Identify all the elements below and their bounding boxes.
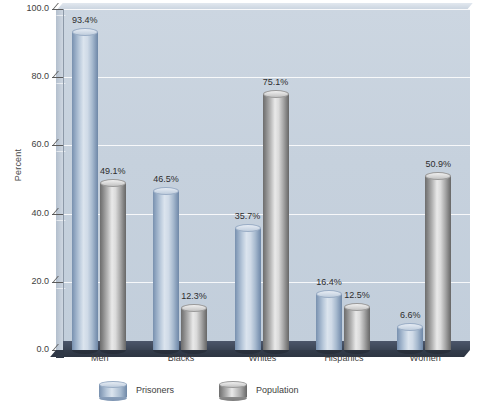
x-axis-label-whites: Whites	[223, 353, 303, 363]
x-axis-label-women: Women	[385, 353, 465, 363]
bar-value-label: 35.7%	[235, 211, 261, 221]
x-axis-label-blacks: Blacks	[141, 353, 221, 363]
gridline-depth	[56, 220, 66, 221]
bar-population-women	[425, 176, 451, 350]
bar-body	[235, 228, 261, 350]
legend-label: Prisoners	[136, 385, 174, 395]
y-axis-tick-mark	[52, 9, 63, 10]
bar-population-blacks	[181, 308, 207, 350]
bar-chart: Percent 0.020.040.060.080.0100.0 93.4%49…	[0, 0, 487, 411]
bar-top-ellipse	[316, 290, 342, 298]
bar-body	[263, 94, 289, 350]
y-axis-line	[63, 9, 64, 350]
y-axis-tick-mark	[52, 282, 63, 283]
legend-item-prisoners[interactable]: Prisoners	[99, 381, 174, 398]
bar-population-whites	[263, 94, 289, 350]
bar-body	[72, 32, 98, 350]
bar-body	[344, 307, 370, 350]
x-axis-label-men: Men	[60, 353, 140, 363]
legend-item-population[interactable]: Population	[219, 381, 299, 398]
bar-population-hispanics	[344, 307, 370, 350]
bar-body	[181, 308, 207, 350]
legend-swatch-part	[219, 381, 247, 388]
bar-prisoners-women	[397, 327, 423, 350]
y-axis-tick-label: 40.0	[5, 208, 49, 218]
bar-prisoners-men	[72, 32, 98, 350]
legend-label: Population	[256, 385, 299, 395]
bar-population-men	[100, 183, 126, 350]
x-axis-label-hispanics: Hispanics	[304, 353, 384, 363]
y-axis-tick-label: 100.0	[5, 3, 49, 13]
y-axis-title: Percent	[13, 125, 23, 205]
chart-legend: PrisonersPopulation	[0, 381, 487, 411]
bar-prisoners-blacks	[153, 191, 179, 350]
gridline-depth	[56, 15, 66, 16]
y-axis-tick-mark	[52, 145, 63, 146]
bar-body	[316, 294, 342, 350]
bar-prisoners-hispanics	[316, 294, 342, 350]
bar-body	[153, 191, 179, 350]
y-axis-tick-label: 0.0	[5, 344, 49, 354]
y-axis-tick-mark	[52, 77, 63, 78]
bar-value-label: 6.6%	[400, 310, 421, 320]
legend-swatch-part	[99, 381, 127, 388]
bar-value-label: 12.3%	[181, 291, 207, 301]
bar-value-label: 46.5%	[153, 174, 179, 184]
bar-value-label: 49.1%	[100, 166, 126, 176]
y-axis-tick-label: 20.0	[5, 276, 49, 286]
gridline	[63, 9, 470, 10]
bar-prisoners-whites	[235, 228, 261, 350]
gridline-depth	[56, 288, 66, 289]
legend-swatch-population	[219, 381, 247, 398]
y-axis-tick-mark	[52, 214, 63, 215]
bar-value-label: 16.4%	[316, 277, 342, 287]
bar-value-label: 93.4%	[72, 15, 98, 25]
bar-top-ellipse	[100, 179, 126, 187]
bar-value-label: 12.5%	[344, 290, 370, 300]
legend-swatch-prisoners	[99, 381, 127, 398]
bar-top-ellipse	[72, 28, 98, 36]
bar-body	[100, 183, 126, 350]
bar-top-ellipse	[263, 90, 289, 98]
y-axis-tick-label: 60.0	[5, 139, 49, 149]
bar-value-label: 50.9%	[426, 159, 452, 169]
bar-value-label: 75.1%	[263, 77, 289, 87]
bar-body	[425, 176, 451, 350]
y-axis-tick-label: 80.0	[5, 71, 49, 81]
